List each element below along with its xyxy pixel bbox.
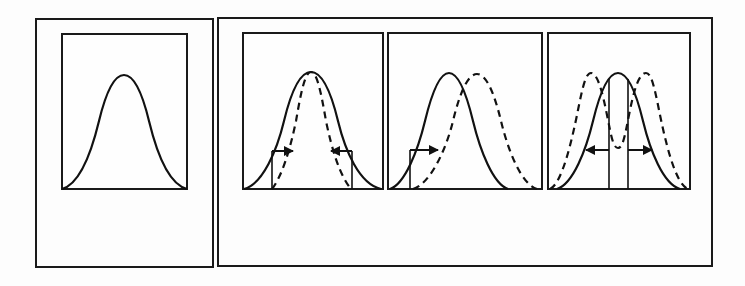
disruptive-selection-group [548, 33, 690, 189]
original-distribution-group [36, 19, 213, 267]
diagram-canvas [0, 0, 745, 286]
stabilizing-selection-group [243, 33, 383, 189]
directional-selection-group [388, 33, 542, 189]
plot-disruptive [548, 33, 690, 189]
plot-stabilizing [243, 33, 383, 189]
plot-directional [388, 33, 542, 189]
plot-original [62, 34, 187, 189]
